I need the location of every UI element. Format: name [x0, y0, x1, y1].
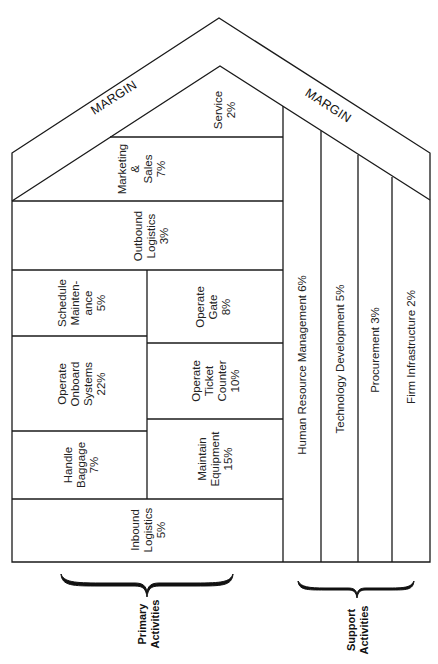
svg-text:3%: 3%	[158, 228, 170, 245]
svg-text:&: &	[129, 165, 141, 173]
svg-text:Maintain: Maintain	[196, 437, 208, 480]
svg-text:Operate: Operate	[56, 363, 68, 405]
svg-text:Inbound: Inbound	[129, 509, 141, 551]
svg-text:ance: ance	[82, 291, 94, 316]
svg-text:7%: 7%	[155, 161, 167, 178]
support-human-resource: Human Resource Management 6%	[296, 275, 308, 455]
svg-text:Logistics: Logistics	[145, 213, 157, 258]
support-firm-infrastructure: Firm Infrastructure 2%	[405, 290, 417, 404]
svg-text:10%: 10%	[229, 369, 241, 392]
svg-text:Sales: Sales	[142, 154, 154, 183]
svg-text:Systems: Systems	[82, 362, 94, 406]
svg-text:Logistics: Logistics	[142, 507, 154, 552]
svg-text:Support: Support	[345, 609, 357, 651]
value-chain-diagram: MARGIN MARGIN Service 2% Marketing & Sal…	[0, 0, 438, 664]
svg-text:Ticket: Ticket	[203, 365, 215, 396]
svg-text:22%: 22%	[95, 372, 107, 395]
svg-text:15%: 15%	[222, 447, 234, 470]
svg-text:Activities: Activities	[358, 606, 370, 655]
svg-text:7%: 7%	[88, 457, 100, 474]
svg-text:Service: Service	[212, 91, 224, 129]
support-technology: Technology Development 5%	[334, 285, 346, 434]
svg-text:Equipment: Equipment	[209, 431, 221, 487]
svg-text:Counter: Counter	[216, 360, 228, 401]
svg-text:Operate: Operate	[194, 286, 206, 328]
svg-text:Schedule: Schedule	[56, 279, 68, 327]
svg-text:Baggage: Baggage	[75, 442, 87, 488]
svg-text:Activities: Activities	[149, 600, 161, 649]
primary-activities-label: Primary Activities	[136, 600, 161, 649]
primary-brace-icon	[61, 574, 233, 597]
svg-text:8%: 8%	[220, 299, 232, 316]
svg-text:2%: 2%	[225, 102, 237, 119]
svg-text:Primary: Primary	[136, 603, 148, 645]
svg-text:Onboard: Onboard	[69, 362, 81, 407]
svg-text:5%: 5%	[155, 522, 167, 539]
svg-text:5%: 5%	[95, 295, 107, 312]
svg-text:Outbound: Outbound	[132, 211, 144, 262]
svg-text:Handle: Handle	[62, 447, 74, 483]
svg-text:Mainten-: Mainten-	[69, 280, 81, 325]
svg-text:Operate: Operate	[190, 360, 202, 402]
support-brace-icon	[298, 581, 414, 598]
support-activities-label: Support Activities	[345, 606, 370, 655]
svg-text:Gate: Gate	[207, 295, 219, 320]
support-procurement: Procurement 3%	[369, 307, 381, 393]
svg-text:Marketing: Marketing	[116, 144, 128, 195]
